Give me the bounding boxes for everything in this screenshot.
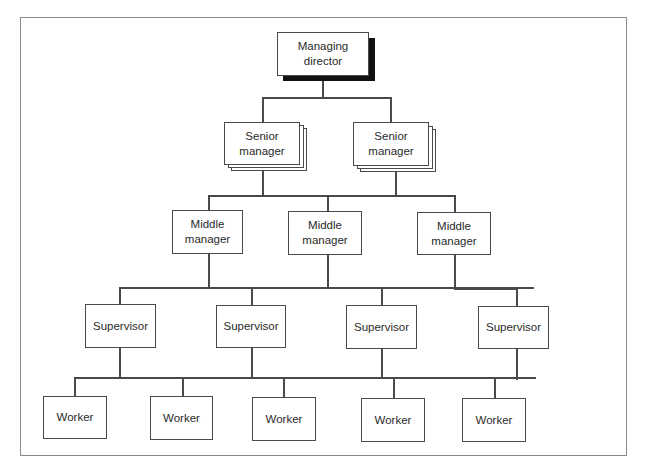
supervisor-3-label: Supervisor xyxy=(354,320,409,335)
connector-middle-3 xyxy=(454,195,456,212)
middle-1-line1: Middle xyxy=(185,217,230,232)
node-worker-5: Worker xyxy=(462,398,526,442)
node-worker-2: Worker xyxy=(150,396,213,440)
supervisor-4-label: Supervisor xyxy=(486,320,541,335)
connector-supervisor-4-down xyxy=(516,349,518,380)
middle-3-line1: Middle xyxy=(431,219,476,234)
node-supervisor-3: Supervisor xyxy=(346,305,417,349)
node-supervisor-1: Supervisor xyxy=(85,304,156,348)
node-worker-1: Worker xyxy=(43,396,107,439)
senior-2-line2: manager xyxy=(368,144,413,159)
connector-middle-2 xyxy=(327,195,329,212)
connector-supervisor-1-down xyxy=(119,347,121,378)
connector-supervisor-1 xyxy=(119,287,121,304)
node-worker-3: Worker xyxy=(252,397,316,441)
connector-middle-1-down xyxy=(208,253,210,288)
middle-2-line2: manager xyxy=(302,233,347,248)
node-senior-manager-2: Senior manager xyxy=(353,122,429,166)
connector-supervisor-2 xyxy=(251,287,253,305)
connector-middle-2-down xyxy=(327,254,329,288)
md-label-line1: Managing xyxy=(298,39,349,54)
worker-1-label: Worker xyxy=(57,410,94,425)
worker-2-label: Worker xyxy=(163,411,200,426)
node-worker-4: Worker xyxy=(361,398,425,442)
connector-worker-1 xyxy=(74,377,76,396)
node-senior-manager-1: Senior manager xyxy=(224,122,300,165)
middle-1-line2: manager xyxy=(185,232,230,247)
node-middle-manager-3: Middle manager xyxy=(417,212,491,255)
connector-worker-2 xyxy=(182,377,184,397)
connector-worker-bus xyxy=(74,377,536,379)
connector-supervisor-4 xyxy=(516,289,518,306)
connector-supervisor-2-down xyxy=(251,348,253,378)
node-middle-manager-1: Middle manager xyxy=(172,210,243,254)
node-middle-manager-2: Middle manager xyxy=(288,211,362,255)
worker-3-label: Worker xyxy=(266,412,303,427)
middle-2-line1: Middle xyxy=(302,218,347,233)
connector-middle-3-down xyxy=(454,254,456,289)
connector-senior-1 xyxy=(262,97,264,122)
connector-supervisor-3 xyxy=(381,288,383,306)
connector-senior-bus xyxy=(262,97,391,99)
node-supervisor-2: Supervisor xyxy=(216,305,286,348)
connector-worker-4 xyxy=(393,378,395,399)
middle-3-line2: manager xyxy=(431,234,476,249)
connector-worker-5 xyxy=(494,379,496,399)
connector-senior-2 xyxy=(390,97,392,122)
supervisor-2-label: Supervisor xyxy=(224,319,279,334)
connector-supervisor-bus-left xyxy=(119,287,124,289)
connector-senior-2-down xyxy=(395,171,397,196)
senior-2-line1: Senior xyxy=(368,129,413,144)
connector-worker-3 xyxy=(283,378,285,398)
md-label-line2: director xyxy=(298,54,349,69)
connector-supervisor-3-down xyxy=(381,348,383,379)
connector-middle-bus xyxy=(208,195,455,197)
senior-1-line1: Senior xyxy=(239,129,284,144)
supervisor-1-label: Supervisor xyxy=(93,319,148,334)
node-managing-director: Managing director xyxy=(277,32,369,76)
senior-1-line2: manager xyxy=(239,144,284,159)
connector-senior-1-down xyxy=(262,170,264,196)
connector-supervisor-bus-right xyxy=(454,288,517,290)
worker-4-label: Worker xyxy=(375,413,412,428)
worker-5-label: Worker xyxy=(476,413,513,428)
connector-middle-1 xyxy=(208,195,210,210)
node-supervisor-4: Supervisor xyxy=(478,306,549,349)
